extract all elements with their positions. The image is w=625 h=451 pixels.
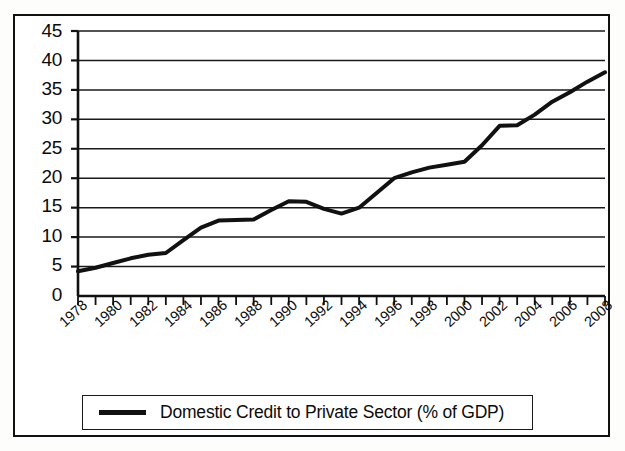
legend-label: Domestic Credit to Private Sector (% of … xyxy=(160,402,504,423)
chart-legend: Domestic Credit to Private Sector (% of … xyxy=(82,395,533,430)
chart-figure: 45 40 35 30 25 20 15 10 5 0 1978 1980 19… xyxy=(0,0,625,451)
data-series-line xyxy=(78,72,605,271)
legend-line-swatch xyxy=(99,410,146,415)
chart-plot-area xyxy=(0,0,625,451)
gridlines xyxy=(71,31,605,267)
